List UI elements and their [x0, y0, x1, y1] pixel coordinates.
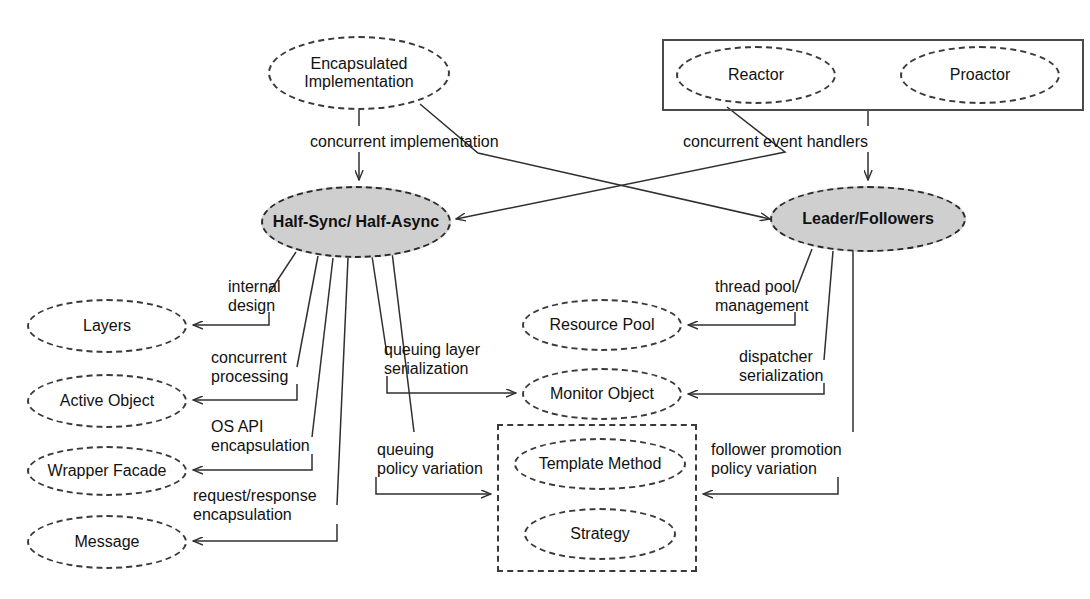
- edge-queuing-policy-to-variation-box: [376, 477, 491, 494]
- edge-label-thread-pool-management: thread pool management: [715, 278, 808, 316]
- edge-label-concurrent-implementation: concurrent implementation: [310, 133, 499, 152]
- node-layers[interactable]: Layers: [27, 299, 187, 353]
- node-proactor[interactable]: Proactor: [900, 46, 1060, 104]
- node-message[interactable]: Message: [27, 515, 187, 569]
- edge-half-sync-concurrent-processing: [297, 256, 318, 367]
- node-monitor-object[interactable]: Monitor Object: [522, 368, 682, 420]
- diagram-canvas: Encapsulated Implementation Reactor Proa…: [0, 0, 1090, 599]
- edge-half-sync-request-response: [337, 258, 348, 505]
- edge-request-response-to-message: [193, 524, 337, 541]
- node-leader-followers[interactable]: Leader/Followers: [770, 186, 966, 252]
- edge-label-queuing-layer-serialization: queuing layer serialization: [384, 341, 480, 379]
- edge-reactor-to-half-sync: [456, 107, 785, 219]
- edge-label-dispatcher-serialization: dispatcher serialization: [739, 348, 823, 386]
- edge-label-concurrent-event-handlers: concurrent event handlers: [683, 133, 868, 152]
- node-strategy[interactable]: Strategy: [524, 508, 676, 560]
- edge-label-internal-design: internal design: [228, 278, 280, 316]
- edge-half-sync-os-api: [312, 258, 333, 437]
- edge-os-api-to-wrapper-facade: [193, 454, 312, 470]
- edge-leader-dispatcher: [824, 251, 833, 360]
- edge-label-os-api-encapsulation: OS API encapsulation: [211, 418, 310, 456]
- node-template-method[interactable]: Template Method: [514, 438, 686, 490]
- node-reactor[interactable]: Reactor: [676, 46, 836, 104]
- edge-follower-promotion-to-variation-box: [703, 477, 838, 494]
- node-resource-pool[interactable]: Resource Pool: [522, 299, 682, 351]
- node-active-object[interactable]: Active Object: [27, 374, 187, 428]
- node-half-sync-half-async[interactable]: Half-Sync/ Half-Async: [261, 186, 451, 258]
- edge-label-concurrent-processing: concurrent processing: [211, 349, 288, 387]
- edge-label-queuing-policy-variation: queuing policy variation: [377, 441, 483, 479]
- node-encapsulated-implementation[interactable]: Encapsulated Implementation: [268, 36, 450, 110]
- edge-label-request-response-encapsulation: request/response encapsulation: [193, 487, 317, 525]
- node-wrapper-facade[interactable]: Wrapper Facade: [27, 446, 187, 496]
- edge-label-follower-promotion-policy-variation: follower promotion policy variation: [711, 441, 842, 479]
- edge-encapsulated-to-leader-followers: [420, 104, 770, 219]
